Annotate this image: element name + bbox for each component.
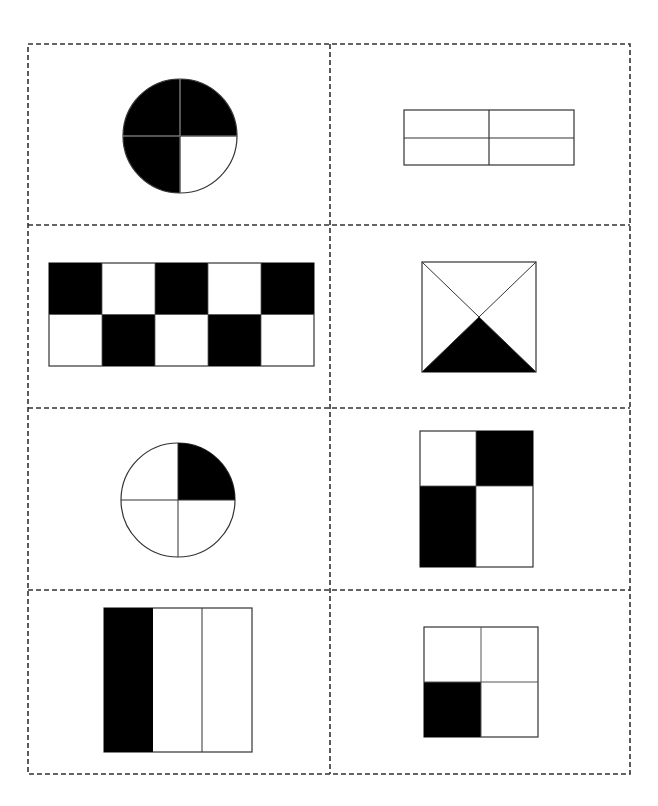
quarter-top-right xyxy=(178,443,235,500)
quarter-bottom-right xyxy=(180,136,237,193)
cell-7-rectangle-thirds xyxy=(104,608,252,752)
quarter-bottom-left xyxy=(123,136,180,193)
cell-3-checkerboard xyxy=(49,263,314,366)
cell-8-square-one-quarter xyxy=(424,627,538,737)
fraction-worksheet xyxy=(0,0,658,806)
cell-1-circle-three-quarters xyxy=(123,79,237,193)
cell-2-rectangle-unshaded xyxy=(404,110,574,165)
cell-4-square-diagonals xyxy=(422,262,536,372)
quarter-top-right xyxy=(180,79,237,136)
quarter-top-left xyxy=(123,79,180,136)
cell-6-rectangle-two-quarters xyxy=(420,431,533,567)
cell-5-circle-one-quarter xyxy=(121,443,235,557)
